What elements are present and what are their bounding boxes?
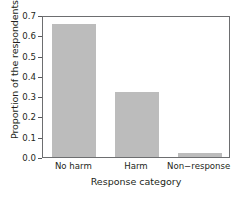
bar xyxy=(52,24,96,157)
y-axis-tick-labels: 0.00.10.20.30.40.50.60.7 xyxy=(14,16,36,158)
y-axis-tick-label: 0.5 xyxy=(14,52,36,61)
bar xyxy=(115,92,159,157)
x-axis-tick-label: Non−response xyxy=(167,161,230,171)
y-axis-tick-label: 0.6 xyxy=(14,32,36,41)
bar xyxy=(178,153,222,157)
x-axis-title: Response category xyxy=(42,176,230,187)
y-axis-tick-label: 0.4 xyxy=(14,73,36,82)
y-axis-tick-mark xyxy=(38,57,42,58)
y-axis-tick-label: 0.3 xyxy=(14,93,36,102)
y-axis-tick-mark xyxy=(38,158,42,159)
x-axis-tick-labels: No harmHarmNon−response xyxy=(42,161,230,175)
y-axis-tick-mark xyxy=(38,138,42,139)
bar-chart-figure: Proportion of the respondents 0.00.10.20… xyxy=(0,0,247,205)
y-axis-tick-mark xyxy=(38,117,42,118)
y-axis-tick-label: 0.2 xyxy=(14,113,36,122)
x-axis-tick-label: No harm xyxy=(55,161,92,171)
x-axis-tick-label: Harm xyxy=(124,161,147,171)
y-axis-tick-label: 0.7 xyxy=(14,12,36,21)
plot-area xyxy=(42,16,230,158)
y-axis-tick-label: 0.1 xyxy=(14,133,36,142)
y-axis-tick-mark xyxy=(38,97,42,98)
y-axis-tick-label: 0.0 xyxy=(14,154,36,163)
y-axis-tick-mark xyxy=(38,36,42,37)
y-axis-tick-mark xyxy=(38,77,42,78)
y-axis-tick-mark xyxy=(38,16,42,17)
